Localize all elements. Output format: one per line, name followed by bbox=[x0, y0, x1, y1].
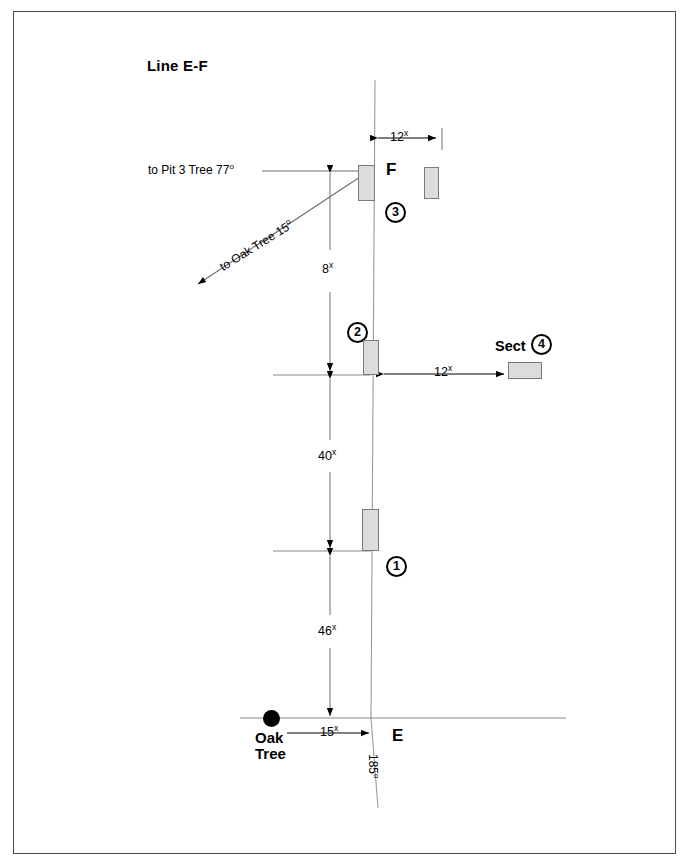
excavation-unit-section-2 bbox=[363, 340, 379, 375]
diagram-page: Line E-F 12x to Pit 3 Tree 77o to Oak Tr… bbox=[0, 0, 691, 868]
section-number-3: 3 bbox=[385, 202, 406, 223]
bearing-to-pit-3-tree: to Pit 3 Tree 77o bbox=[148, 164, 234, 176]
bearing-text: 185 bbox=[366, 754, 380, 774]
dimension-unit: x bbox=[404, 128, 408, 138]
section-number-4: 4 bbox=[531, 334, 552, 355]
dimension-label-sect2-offset: 12x bbox=[434, 366, 452, 379]
dimension-unit: x bbox=[329, 260, 333, 270]
dimension-label-top-offset: 12x bbox=[390, 131, 408, 144]
excavation-unit-section-3 bbox=[358, 165, 375, 201]
diagram-vector-layer bbox=[0, 0, 691, 868]
bearing-line-185: 185o bbox=[367, 754, 379, 778]
point-label-f: F bbox=[386, 161, 396, 178]
dimension-unit: x bbox=[448, 363, 452, 373]
section-number-1: 1 bbox=[386, 556, 407, 577]
dimension-value: 46 bbox=[318, 624, 332, 638]
oak-tree-label: Oak Tree bbox=[255, 730, 286, 762]
page-title: Line E-F bbox=[147, 58, 208, 73]
excavation-unit-section-3-offset bbox=[424, 167, 439, 199]
dimension-value: 12 bbox=[434, 365, 448, 379]
oak-tree-label-line1: Oak bbox=[255, 730, 286, 746]
excavation-unit-section-1 bbox=[362, 509, 379, 551]
dimension-value: 12 bbox=[390, 130, 404, 144]
dimension-label-oak-to-e: 15x bbox=[320, 726, 338, 739]
dimension-value: 8 bbox=[322, 262, 329, 276]
point-label-e: E bbox=[392, 727, 403, 744]
dimension-value: 40 bbox=[318, 449, 332, 463]
dimension-label-8x: 8x bbox=[322, 263, 333, 276]
dimension-unit: x bbox=[332, 447, 336, 457]
degree-symbol: o bbox=[372, 774, 381, 778]
oak-tree-marker bbox=[263, 710, 280, 727]
dimension-label-40x: 40x bbox=[318, 450, 336, 463]
oak-tree-label-line2: Tree bbox=[255, 746, 286, 762]
excavation-unit-section-4 bbox=[508, 362, 542, 379]
bearing-text: to Pit 3 Tree 77 bbox=[148, 163, 229, 177]
sect-label: Sect bbox=[495, 339, 526, 354]
dimension-label-46x: 46x bbox=[318, 625, 336, 638]
dimension-unit: x bbox=[334, 723, 338, 733]
degree-symbol: o bbox=[229, 162, 233, 171]
dimension-value: 15 bbox=[320, 725, 334, 739]
dimension-unit: x bbox=[332, 622, 336, 632]
dimension-top-offset bbox=[378, 128, 442, 150]
